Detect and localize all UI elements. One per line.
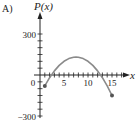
axes	[34, 12, 130, 118]
profit-chart: A)P(x)x−300300051015	[0, 0, 138, 127]
x-axis-label: x	[129, 69, 135, 81]
x-tick-label: 10	[84, 78, 94, 88]
y-axis-arrow-icon	[38, 12, 43, 19]
x-tick-label: 5	[62, 78, 67, 88]
y-axis-label: P(x)	[33, 0, 53, 13]
panel-label: A)	[2, 3, 13, 15]
x-axis-arrow-icon	[123, 73, 130, 78]
labels: A)P(x)x−300300051015	[2, 0, 135, 122]
x-tick-label: 0	[31, 78, 36, 88]
endpoint-dot	[110, 94, 114, 98]
endpoint-dot	[43, 84, 47, 88]
y-tick-label: 300	[23, 30, 37, 40]
y-tick-label: −300	[17, 112, 36, 122]
x-tick-label: 15	[108, 78, 118, 88]
